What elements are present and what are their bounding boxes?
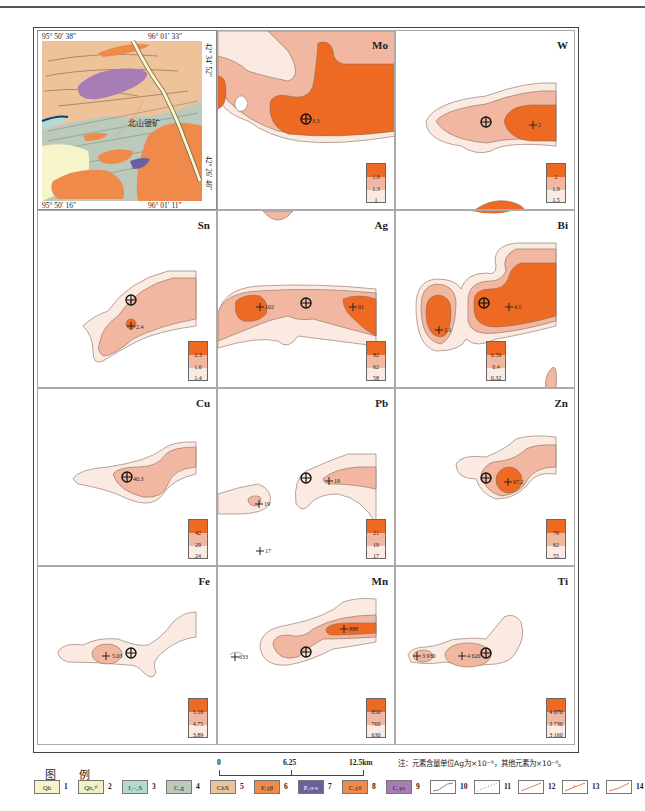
svg-text:40.3: 40.3 bbox=[133, 476, 144, 482]
element-label: Sn bbox=[198, 219, 210, 231]
legend-scale-box: 211917 bbox=[366, 519, 386, 559]
element-label: Pb bbox=[375, 397, 388, 409]
legend-scale-box: 5.164.753.89 bbox=[188, 698, 208, 738]
svg-text:5.03: 5.03 bbox=[112, 653, 123, 659]
element-label: Cu bbox=[196, 397, 210, 409]
scale-label-end: 12.5km bbox=[349, 758, 373, 767]
panel-ti: 3 930 4 620 Ti 4 0703 7303 160 bbox=[395, 566, 575, 745]
coord-bottom-right: 96° 01′ 11″ bbox=[148, 201, 182, 210]
panel-bi: 2.1 4.5 Bi 0.590.40.32 bbox=[395, 210, 575, 388]
legend-scale-box: 1.91.31 bbox=[366, 163, 386, 203]
element-label: Ag bbox=[375, 219, 388, 231]
coord-right-bottom: 42° 26′ 48″ bbox=[204, 156, 213, 190]
scale-bar: 0 6.25 12.5km bbox=[219, 769, 364, 779]
element-label: Mo bbox=[372, 39, 388, 51]
unit-note: 注：元素含量单位Ag为×10⁻⁹，其他元素为×10⁻⁶。 bbox=[398, 757, 565, 768]
scale-label-mid: 6.25 bbox=[283, 758, 296, 767]
geology-map: 北山银矿 bbox=[38, 31, 217, 210]
panel-grid: 北山银矿 95° 50′ 38″ 96° 01′ 33″ 95° 50′ 16″… bbox=[37, 30, 575, 747]
element-label: Ti bbox=[558, 575, 568, 587]
legend-scale-box: 2.31.61.4 bbox=[188, 341, 208, 381]
legend-scale-box: 0.590.40.32 bbox=[486, 341, 506, 381]
coord-right-top: 42° 34′ 52″ bbox=[204, 43, 213, 77]
svg-text:3.3: 3.3 bbox=[312, 118, 320, 124]
svg-text:91: 91 bbox=[358, 304, 364, 310]
scale-label-0: 0 bbox=[217, 758, 221, 767]
legend-scale-box: 766255 bbox=[546, 519, 566, 559]
coord-top-right: 96° 01′ 33″ bbox=[148, 32, 182, 41]
svg-text:633: 633 bbox=[239, 654, 248, 660]
svg-text:4.5: 4.5 bbox=[514, 304, 522, 310]
svg-text:19: 19 bbox=[264, 501, 270, 507]
svg-text:888: 888 bbox=[349, 626, 358, 632]
panel-pb: 19 19 17 Pb 211917 bbox=[217, 388, 395, 566]
legend-scale-box: 21.91.5 bbox=[546, 163, 566, 203]
panel-ag: 102 91 Ag 826258 bbox=[217, 210, 395, 388]
svg-text:102: 102 bbox=[265, 304, 274, 310]
element-label: Mn bbox=[372, 575, 389, 587]
svg-text:17: 17 bbox=[265, 548, 271, 554]
svg-text:2.1: 2.1 bbox=[444, 327, 452, 333]
svg-text:4 620: 4 620 bbox=[467, 653, 481, 659]
element-label: Bi bbox=[558, 219, 568, 231]
panel-w: 2 W 21.91.5 bbox=[395, 30, 575, 210]
legend-scale-box: 850760630 bbox=[366, 698, 386, 738]
element-label: W bbox=[557, 39, 568, 51]
legend-scale-box: 4 0703 7303 160 bbox=[546, 698, 566, 738]
panel-sn: 2.4 Sn 2.31.61.4 bbox=[37, 210, 217, 388]
geology-map-panel: 北山银矿 95° 50′ 38″ 96° 01′ 33″ 95° 50′ 16″… bbox=[37, 30, 217, 210]
legend-scale-box: 826258 bbox=[366, 341, 386, 381]
place-name: 北山银矿 bbox=[128, 118, 160, 128]
panel-fe: 5.03 Fe 5.164.753.89 bbox=[37, 566, 217, 745]
svg-text:2: 2 bbox=[538, 122, 541, 128]
top-rule bbox=[0, 6, 645, 8]
element-label: Fe bbox=[198, 575, 210, 587]
panel-mn: 888 633 Mn 850760630 bbox=[217, 566, 395, 745]
element-label: Zn bbox=[555, 397, 568, 409]
svg-text:2.4: 2.4 bbox=[136, 324, 144, 330]
panel-mo: 3.3 Mo 1.91.31 bbox=[217, 30, 395, 210]
panel-cu: 40.3 Cu 422924 bbox=[37, 388, 217, 566]
legend-scale-box: 422924 bbox=[188, 519, 208, 559]
svg-text:19: 19 bbox=[334, 478, 340, 484]
svg-text:3 930: 3 930 bbox=[422, 653, 436, 659]
svg-text:97.2: 97.2 bbox=[513, 479, 524, 485]
panel-zn: 97.2 Zn 766255 bbox=[395, 388, 575, 566]
coord-top-left: 95° 50′ 38″ bbox=[42, 32, 76, 41]
coord-bottom-left: 95° 50′ 16″ bbox=[42, 201, 76, 210]
